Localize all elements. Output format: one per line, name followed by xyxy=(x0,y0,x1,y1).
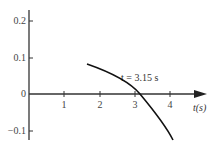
root-annotation: t = 3.15 s xyxy=(121,72,158,83)
x-tick-label: 4 xyxy=(168,99,173,110)
x-axis-arrow-icon xyxy=(194,90,207,98)
x-tick-label: 1 xyxy=(62,99,67,110)
y-tick-label: 0.2 xyxy=(14,15,27,26)
x-axis-label: t(s) xyxy=(193,102,207,114)
x-tick-label: 3 xyxy=(133,99,138,110)
x-tick-label: 2 xyxy=(98,99,103,110)
y-tick-label: 0.1 xyxy=(14,52,27,63)
y-tick-label: 0 xyxy=(21,88,26,99)
y-tick-label: −0.1 xyxy=(8,125,26,136)
chart: 0.2 0.1 0 −0.1 1 2 3 4 t(s) t = 3.15 s xyxy=(0,0,218,148)
